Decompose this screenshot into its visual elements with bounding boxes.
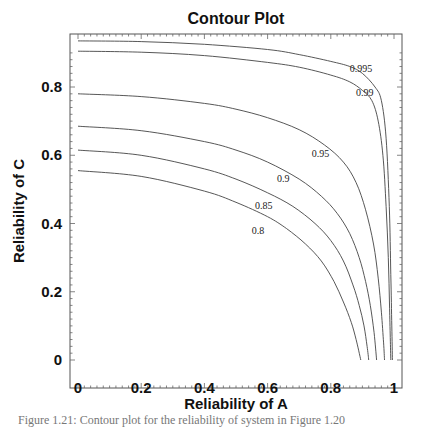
contour-label-0.99: 0.99 (356, 87, 374, 98)
y-tick-label: 0.6 (41, 146, 62, 163)
x-tick-label: 1 (390, 379, 398, 396)
y-tick-label: 0.4 (41, 215, 63, 232)
x-tick-label: 0.4 (194, 379, 216, 396)
x-axis-label: Reliability of A (184, 395, 288, 412)
contour-chart: Contour Plot 00.20.40.60.81 00.20.40.60.… (0, 0, 423, 427)
y-tick-label: 0.8 (41, 78, 62, 95)
x-tick-label: 0 (74, 379, 82, 396)
contour-label-0.8: 0.8 (252, 225, 264, 236)
x-tick-label: 0.2 (131, 379, 152, 396)
figure-caption: Figure 1.21: Contour plot for the reliab… (18, 413, 345, 427)
x-tick-label: 0.8 (320, 379, 341, 396)
contour-label-0.9: 0.9 (277, 173, 290, 184)
contour-labels: 0.9950.990.950.90.850.8 (252, 63, 374, 236)
chart-title: Contour Plot (188, 10, 286, 27)
contour-lines (78, 41, 392, 360)
contour-line-0.995 (78, 41, 392, 360)
y-tick-labels: 00.20.40.60.8 (41, 78, 63, 368)
contour-line-0.85 (78, 150, 369, 360)
contour-label-0.85: 0.85 (255, 200, 273, 211)
axis-ticks (70, 34, 402, 388)
y-axis-label: Reliability of C (10, 159, 27, 263)
contour-label-0.995: 0.995 (350, 63, 373, 74)
x-tick-label: 0.6 (257, 379, 278, 396)
contour-line-0.8 (78, 171, 361, 360)
contour-label-0.95: 0.95 (312, 148, 330, 159)
plot-frame (70, 34, 402, 388)
contour-line-0.95 (78, 94, 385, 360)
contour-line-0.9 (78, 126, 377, 360)
contour-line-0.99 (78, 51, 391, 360)
y-tick-label: 0 (54, 351, 62, 368)
y-tick-label: 0.2 (41, 283, 62, 300)
